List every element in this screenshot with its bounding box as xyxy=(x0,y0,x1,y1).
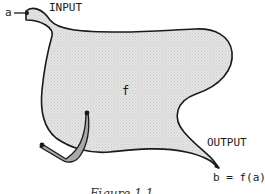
input-variable-label: a xyxy=(5,7,12,18)
function-machine-diagram: a INPUT f OUTPUT b = f(a) Figure 1.1 xyxy=(0,0,265,194)
function-label: f xyxy=(122,85,129,97)
input-label: INPUT xyxy=(49,2,82,13)
output-label: OUTPUT xyxy=(207,137,247,148)
function-blob-shape xyxy=(0,0,265,194)
input-arrow-head xyxy=(25,11,29,15)
figure-caption: Figure 1.1 xyxy=(90,188,153,194)
output-expression: b = f(a) xyxy=(213,172,265,183)
